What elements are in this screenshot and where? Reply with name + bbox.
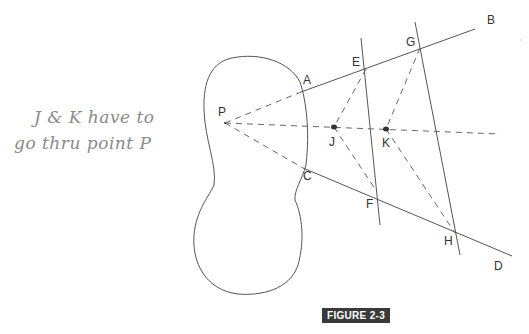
label-F: F: [366, 197, 373, 211]
label-P: P: [218, 105, 226, 119]
dashed-EJ: [334, 69, 366, 127]
geometry-diagram: P A B C D E F G H J K: [0, 0, 529, 334]
dashed-PA: [225, 92, 301, 123]
label-B: B: [487, 13, 495, 27]
label-D: D: [494, 259, 503, 273]
dashed-PC: [225, 123, 303, 168]
irregular-region-outline: [194, 56, 308, 294]
ray-CD: [303, 168, 512, 256]
label-A: A: [303, 73, 311, 87]
label-J: J: [329, 135, 335, 149]
point-P-dot: [224, 122, 226, 124]
label-G: G: [406, 35, 415, 49]
dashed-PJK: [225, 123, 500, 134]
point-K-dot: [383, 127, 389, 132]
point-J-dot: [331, 125, 337, 130]
label-H: H: [444, 234, 453, 248]
label-K: K: [382, 136, 390, 150]
line-GH: [415, 22, 460, 255]
ray-AB: [301, 29, 475, 92]
figure-caption: FIGURE 2-3: [322, 308, 390, 323]
speck-mark: [520, 39, 522, 41]
label-C: C: [303, 169, 312, 183]
dashed-GK: [386, 48, 420, 129]
label-E: E: [352, 55, 360, 69]
